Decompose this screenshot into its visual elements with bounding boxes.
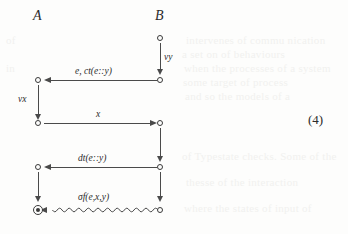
lifeline-a-segment-1	[38, 85, 39, 116]
node-b-3[interactable]	[157, 120, 163, 126]
bleed-text-line: some target of process	[183, 76, 288, 88]
message-label-4: σf(e,x,y)	[78, 192, 109, 202]
column-header-b: B	[155, 8, 164, 24]
bleed-text-line: thesse of the interaction	[186, 176, 298, 188]
bleed-text-line: intervenes of commu nication	[186, 34, 325, 46]
node-b-4[interactable]	[157, 164, 163, 170]
lifeline-a-segment-2	[38, 172, 39, 198]
bleed-text-line: in	[6, 62, 15, 74]
message-label-2: x	[96, 109, 100, 119]
message-line-1	[48, 80, 157, 81]
arrowhead-message-2	[150, 120, 157, 126]
message-line-3	[48, 167, 157, 168]
figure-canvas: intervenes of commu nication a set on of…	[0, 0, 348, 234]
arrowhead-message-1	[44, 77, 51, 83]
message-line-4-wavy	[45, 203, 159, 217]
bleed-text-line: and so the models of a	[185, 90, 290, 102]
arrowhead-b-segment-1	[157, 69, 163, 75]
node-a-2[interactable]	[35, 120, 41, 126]
vertical-edge-label-vx: vx	[18, 94, 26, 104]
arrowhead-b-segment-2	[157, 156, 163, 162]
node-a-3[interactable]	[35, 164, 41, 170]
bleed-text-line: of	[6, 34, 16, 46]
bleed-text-line: a set on of behaviours	[182, 48, 285, 60]
message-label-1: e, ct(e::y)	[75, 66, 112, 76]
message-label-3: dt(e::y)	[78, 153, 106, 163]
lifeline-b-segment-3	[160, 172, 161, 198]
arrowhead-a-segment-2	[35, 196, 41, 202]
arrowhead-message-3	[44, 164, 51, 170]
node-a-final-terminal[interactable]	[33, 205, 43, 215]
bleed-text-line: where the states of input of	[184, 202, 312, 214]
message-line-2	[44, 123, 150, 124]
node-b-1[interactable]	[157, 35, 163, 41]
vertical-edge-label-vy: vy	[164, 52, 172, 62]
bleed-text-line: of Typestate checks. Some of the	[182, 150, 337, 162]
lifeline-b-segment-2	[160, 128, 161, 158]
column-header-a: A	[33, 8, 42, 24]
equation-number: (4)	[308, 112, 323, 128]
arrowhead-b-segment-3	[157, 196, 163, 202]
lifeline-b-segment-1	[160, 43, 161, 71]
node-b-2[interactable]	[157, 77, 163, 83]
node-a-1[interactable]	[35, 77, 41, 83]
bleed-text-line: when the processes of a system	[184, 62, 331, 74]
